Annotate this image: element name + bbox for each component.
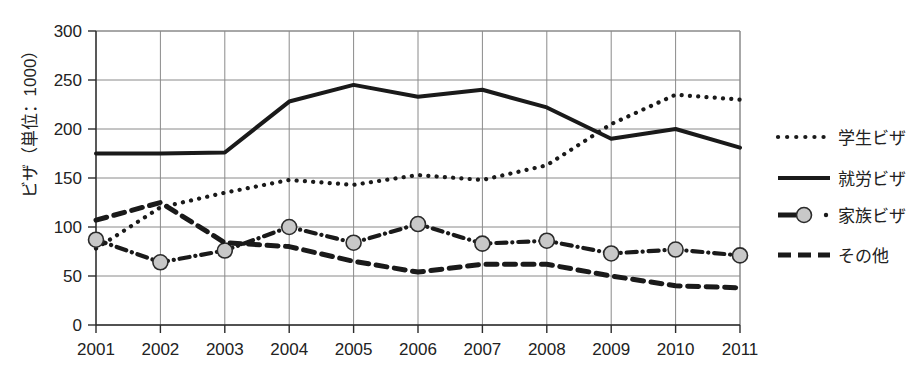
data-point-marker bbox=[668, 242, 683, 257]
legend-label: 学生ビザ bbox=[838, 129, 906, 148]
x-tick-label: 2008 bbox=[528, 340, 566, 359]
legend-swatch-dot bbox=[824, 213, 828, 217]
y-tick-label: 0 bbox=[73, 316, 82, 335]
x-axis-tick-labels: 2001200220032004200520062007200820092010… bbox=[77, 340, 758, 359]
chart-svg: 050100150200250300 200120022003200420052… bbox=[0, 0, 914, 378]
x-tick-label: 2003 bbox=[206, 340, 244, 359]
y-tick-label: 50 bbox=[63, 267, 82, 286]
x-tick-label: 2009 bbox=[592, 340, 630, 359]
legend-label: 就労ビザ bbox=[838, 170, 906, 189]
x-tick-label: 2001 bbox=[77, 340, 115, 359]
x-tick-label: 2002 bbox=[141, 340, 179, 359]
y-tick-label: 200 bbox=[54, 120, 82, 139]
legend-swatch-marker bbox=[797, 208, 812, 223]
data-point-marker bbox=[539, 233, 554, 248]
data-point-marker bbox=[411, 217, 426, 232]
x-tick-label: 2011 bbox=[722, 340, 759, 359]
legend-label: 家族ビザ bbox=[838, 207, 906, 226]
y-axis-title: ビザ（単位：1000） bbox=[21, 42, 40, 199]
y-tick-label: 300 bbox=[54, 22, 82, 41]
y-tick-label: 250 bbox=[54, 71, 82, 90]
y-tick-label: 150 bbox=[54, 169, 82, 188]
legend-label: その他 bbox=[838, 247, 889, 266]
data-point-marker bbox=[89, 232, 104, 247]
data-point-marker bbox=[346, 235, 361, 250]
x-tick-label: 2004 bbox=[270, 340, 308, 359]
data-point-marker bbox=[153, 255, 168, 270]
visa-line-chart: 050100150200250300 200120022003200420052… bbox=[0, 0, 914, 378]
y-tick-label: 100 bbox=[54, 218, 82, 237]
data-point-marker bbox=[282, 220, 297, 235]
chart-background bbox=[0, 0, 914, 378]
data-point-marker bbox=[475, 236, 490, 251]
data-point-marker bbox=[604, 246, 619, 261]
data-point-marker bbox=[733, 248, 748, 263]
x-tick-label: 2005 bbox=[335, 340, 373, 359]
x-tick-label: 2010 bbox=[657, 340, 695, 359]
y-axis-title-group: ビザ（単位：1000） bbox=[21, 42, 40, 199]
x-tick-label: 2006 bbox=[399, 340, 437, 359]
x-tick-label: 2007 bbox=[463, 340, 501, 359]
